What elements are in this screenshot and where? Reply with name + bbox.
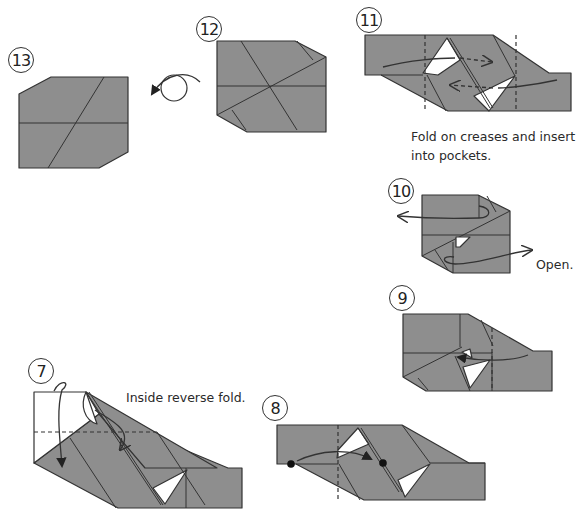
step-7-figure xyxy=(34,383,242,508)
origami-diagram: 13 12 11 10 9 8 7 Fold on creases and in… xyxy=(0,0,581,519)
step-9-figure xyxy=(403,314,552,391)
step-10-figure xyxy=(398,195,532,273)
step-11-figure xyxy=(365,35,571,111)
diagram-drawings xyxy=(0,0,581,519)
step-8-figure xyxy=(277,425,485,500)
step-12-figure xyxy=(217,41,326,132)
turn-over-icon xyxy=(152,75,200,101)
step-13-figure xyxy=(19,77,128,168)
